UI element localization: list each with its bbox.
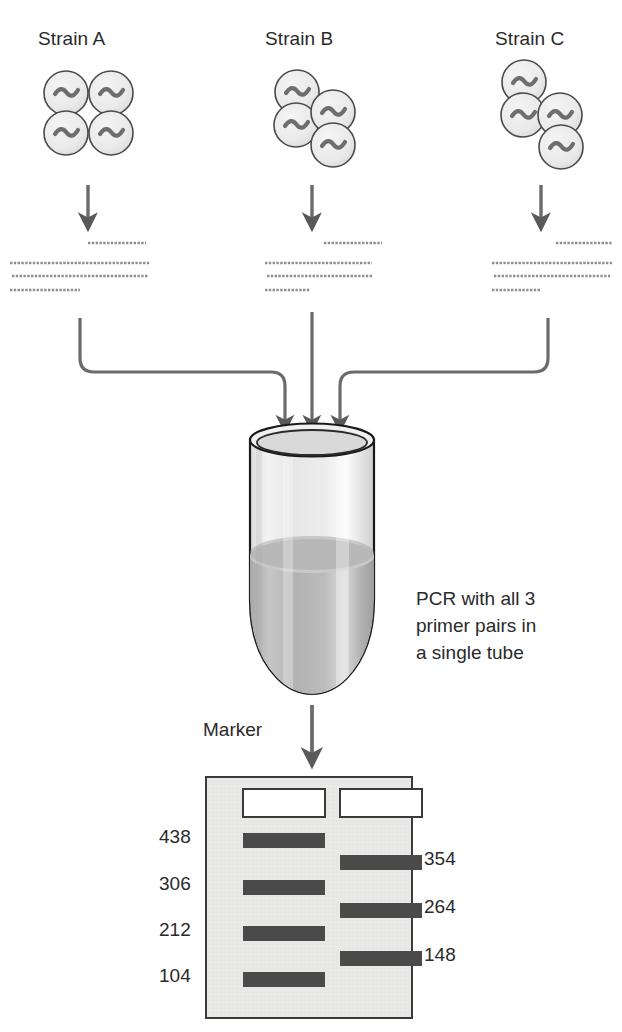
colony-strain-a xyxy=(44,71,133,155)
pcr-annotation-line-3: a single tube xyxy=(416,639,536,666)
bacterial-cell-icon xyxy=(44,111,88,155)
dna-fragments-strain-b xyxy=(265,243,382,290)
gel-band xyxy=(243,926,325,941)
pcr-tube xyxy=(250,424,374,695)
bacterial-cell-icon xyxy=(89,71,133,115)
gel-band xyxy=(243,833,325,848)
diagram-canvas xyxy=(0,0,622,1032)
tube-rim-inner xyxy=(257,430,367,455)
multiplex-pcr-diagram: Strain A Strain B Strain C PCR with all … xyxy=(0,0,622,1032)
colony-strain-b xyxy=(274,70,355,167)
pcr-annotation-line-2: primer pairs in xyxy=(416,612,536,639)
pcr-annotation-line-1: PCR with all 3 xyxy=(416,585,536,612)
gel-size-label-306: 306 xyxy=(159,873,191,895)
dna-fragments-strain-a xyxy=(10,243,150,290)
marker-lane-caption: Marker xyxy=(203,719,262,741)
gel-size-label-438: 438 xyxy=(159,826,191,848)
gel-well-sample xyxy=(340,789,422,817)
gel-size-label-212: 212 xyxy=(159,919,191,941)
pcr-annotation: PCR with all 3 primer pairs in a single … xyxy=(416,585,536,666)
strain-label-a: Strain A xyxy=(38,28,105,50)
gel-band xyxy=(243,972,325,987)
bacterial-cell-icon xyxy=(89,111,133,155)
gel-size-label-148: 148 xyxy=(424,944,456,966)
gel-size-label-354: 354 xyxy=(424,848,456,870)
bacterial-cell-icon xyxy=(44,71,88,115)
strain-label-c: Strain C xyxy=(495,28,564,50)
gel-size-label-104: 104 xyxy=(159,965,191,987)
gel-band xyxy=(340,855,422,870)
gel-band xyxy=(340,903,422,918)
gel-size-label-264: 264 xyxy=(424,896,456,918)
converging-feed-lines xyxy=(80,312,548,424)
gel-well-marker xyxy=(243,789,325,817)
dna-fragments-strain-c xyxy=(492,243,612,290)
colony-strain-c xyxy=(501,60,583,169)
gel-band xyxy=(340,951,422,966)
agarose-gel xyxy=(206,777,422,1018)
bacterial-cell-icon xyxy=(539,125,583,169)
strain-label-b: Strain B xyxy=(265,28,333,50)
gel-band xyxy=(243,880,325,895)
bacterial-cell-icon xyxy=(311,123,355,167)
